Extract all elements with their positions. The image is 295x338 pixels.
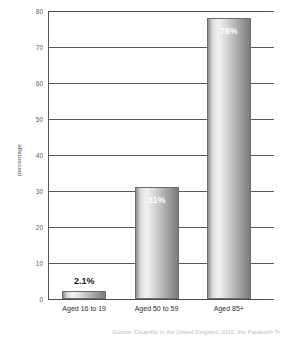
y-axis-tick-20 [265, 227, 274, 228]
y-axis-tick-30 [265, 191, 274, 192]
source-note: Source: Disability in the United Kingdom… [112, 329, 295, 335]
y-axis-title-label: percentage [16, 120, 22, 200]
bar-value-label-2: 78% [208, 26, 250, 36]
y-axis-tick-label-80: 80 [36, 8, 43, 15]
bar-value-label-0: 2.1% [63, 276, 105, 286]
y-axis-tick-80 [265, 11, 274, 12]
bar-value-label-1: 31% [136, 195, 178, 205]
x-axis-label-1: Aged 50 to 59 [120, 305, 192, 312]
x-axis-label-2: Aged 85+ [193, 305, 265, 312]
plot-area: 01020304050607080 2.1%31%78% [48, 11, 265, 299]
y-axis-title: percentage [2, 40, 8, 120]
y-axis-tick-label-30: 30 [36, 188, 43, 195]
y-axis-tick-label-10: 10 [36, 260, 43, 267]
y-axis-tick-label-60: 60 [36, 80, 43, 87]
y-axis-tick-label-50: 50 [36, 116, 43, 123]
y-axis-tick-70 [265, 47, 274, 48]
gridline-80 [48, 11, 265, 12]
y-axis-tick-label-0: 0 [39, 296, 43, 303]
bar-2: 78% [207, 18, 251, 299]
x-axis-label-0: Aged 16 to 19 [48, 305, 120, 312]
y-axis-tick-label-40: 40 [36, 152, 43, 159]
bar-0: 2.1% [62, 291, 106, 299]
bar-chart: percentage 01020304050607080 2.1%31%78% … [0, 0, 295, 338]
y-axis-tick-label-70: 70 [36, 44, 43, 51]
y-axis-tick-40 [265, 155, 274, 156]
y-axis-tick-0 [265, 299, 274, 300]
bar-1: 31% [135, 187, 179, 299]
y-axis-tick-10 [265, 263, 274, 264]
y-axis-tick-50 [265, 119, 274, 120]
y-axis-tick-label-20: 20 [36, 224, 43, 231]
y-axis-tick-60 [265, 83, 274, 84]
